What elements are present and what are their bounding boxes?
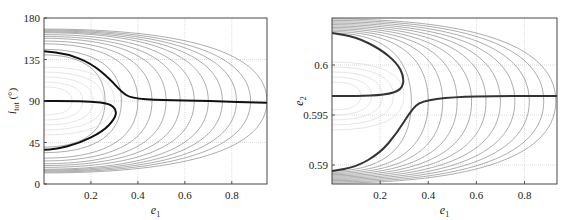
x-tick-label: 0.8: [518, 189, 532, 201]
y-axis-label: itot (°): [5, 88, 21, 115]
y-tick-label: 0.595: [303, 109, 328, 121]
separatrix-lower: [332, 96, 557, 171]
y-axis-label: e2: [292, 96, 308, 105]
x-tick-label: 0.6: [178, 189, 192, 201]
right-chart: 0.20.40.60.80.590.5950.6e1e2: [292, 18, 557, 219]
y-tick-label: 45: [29, 137, 41, 149]
x-tick-label: 0.8: [225, 189, 239, 201]
contour-line: [332, 27, 472, 175]
y-tick-label: 0: [35, 178, 41, 190]
figure: 0.20.40.60.804590135180e1itot (°)0.20.40…: [0, 0, 569, 220]
x-axis-label: e1: [440, 203, 449, 219]
y-tick-label: 90: [29, 95, 41, 107]
x-tick-label: 0.6: [470, 189, 484, 201]
left-chart: 0.20.40.60.804590135180e1itot (°): [5, 12, 267, 219]
y-tick-label: 135: [24, 54, 41, 66]
contour-line: [332, 33, 411, 171]
y-tick-label: 0.59: [309, 159, 329, 171]
separatrix-upper: [44, 51, 267, 103]
separatrix-curves: [332, 33, 557, 171]
x-tick-label: 0.2: [84, 189, 98, 201]
x-tick-label: 0.4: [131, 189, 145, 201]
contour-lines: [332, 19, 556, 183]
y-tick-label: 0.6: [314, 59, 328, 71]
x-tick-label: 0.4: [421, 189, 435, 201]
y-tick-label: 180: [24, 12, 41, 24]
contour-line: [332, 20, 544, 181]
x-axis-label: e1: [151, 203, 160, 219]
contour-line: [332, 25, 500, 179]
contour-line: [332, 29, 457, 175]
contour-line: [332, 26, 486, 177]
separatrix-upper-lobe: [332, 33, 403, 96]
x-tick-label: 0.2: [373, 189, 387, 201]
